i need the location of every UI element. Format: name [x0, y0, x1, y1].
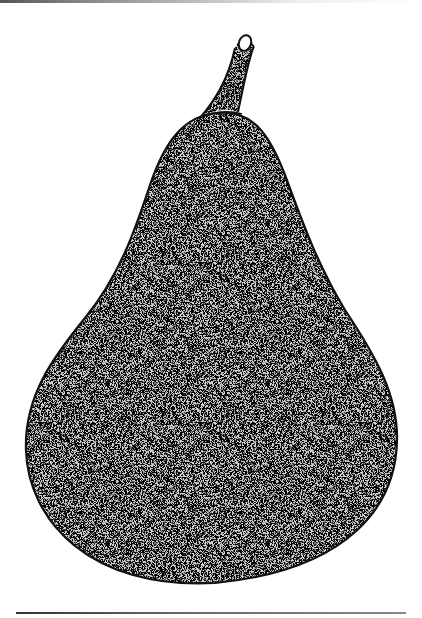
bottom-rule — [16, 612, 406, 614]
stem — [190, 30, 260, 125]
pear-body — [20, 105, 405, 590]
pear-illustration — [0, 0, 422, 618]
